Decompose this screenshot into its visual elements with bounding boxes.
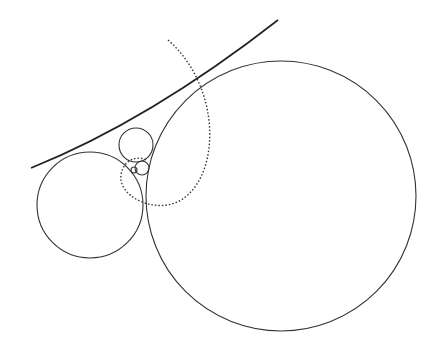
geometry-diagram [0,0,436,350]
